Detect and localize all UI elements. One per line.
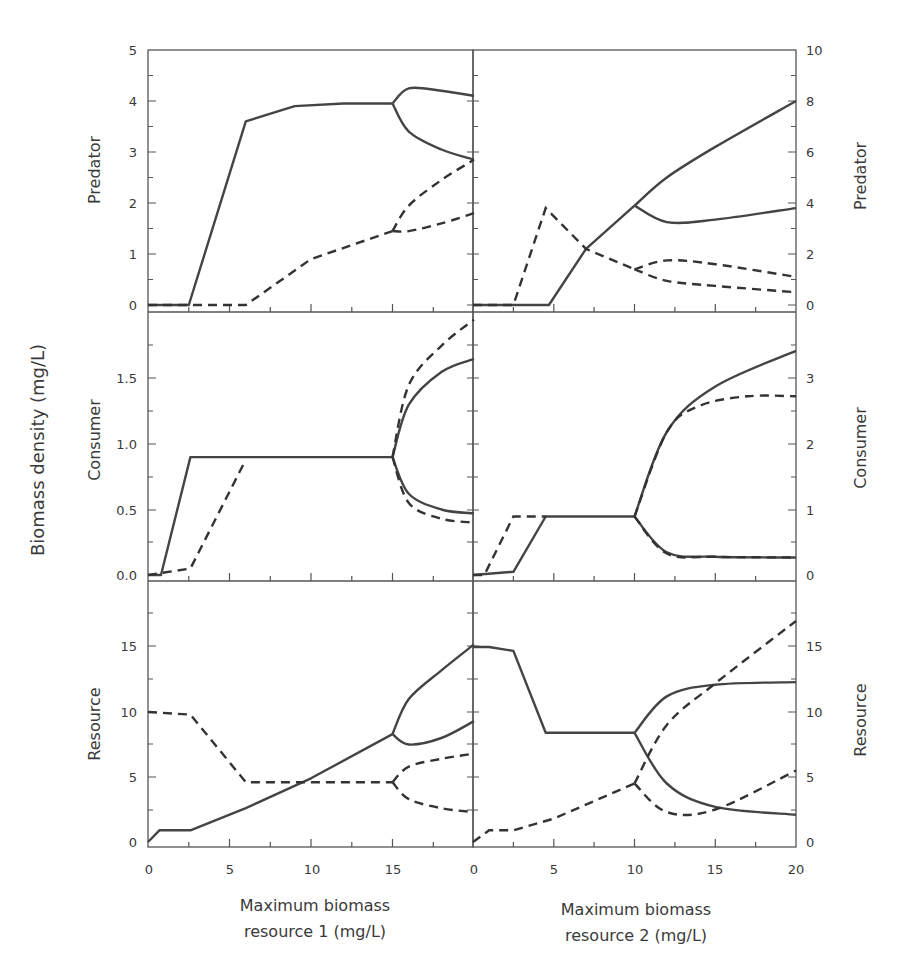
x-axis-title-right-line1: Maximum biomass <box>561 900 711 919</box>
svg-text:10: 10 <box>806 43 823 58</box>
svg-text:15: 15 <box>385 862 402 877</box>
svg-text:10: 10 <box>304 862 321 877</box>
solid-curve <box>473 517 635 576</box>
svg-text:3: 3 <box>129 145 137 160</box>
svg-text:8: 8 <box>806 94 814 109</box>
svg-text:1: 1 <box>129 247 137 262</box>
solid-curve <box>635 517 797 558</box>
svg-text:2: 2 <box>129 196 137 211</box>
svg-text:20: 20 <box>788 862 805 877</box>
svg-text:15: 15 <box>707 862 724 877</box>
solid-curve <box>635 101 797 206</box>
svg-text:0: 0 <box>806 568 814 583</box>
svg-text:2: 2 <box>806 247 814 262</box>
dashed-curve <box>393 754 475 783</box>
solid-curve <box>393 644 475 734</box>
y-axis-title: Biomass density (mg/L) <box>27 344 48 556</box>
svg-text:5: 5 <box>129 43 137 58</box>
svg-text:1: 1 <box>806 503 814 518</box>
dashed-curve <box>393 320 475 458</box>
x-axis-title-left-line1: Maximum biomass <box>240 896 390 915</box>
right-consumer-tick-labels: 0 1 2 3 <box>806 371 814 583</box>
solid-curve <box>635 682 797 733</box>
bifurcation-figure: Biomass density (mg/L) Predator Consumer… <box>0 0 899 974</box>
row-label-predator-left: Predator <box>85 136 104 204</box>
left-consumer-tick-labels: 0.0 0.5 1.0 1.5 <box>116 371 137 583</box>
x-axis-title-right-line2: resource 2 (mg/L) <box>565 926 707 945</box>
solid-curve <box>148 104 393 306</box>
solid-curve <box>393 721 475 744</box>
panel-consumer-right-curves <box>473 351 796 575</box>
svg-text:0: 0 <box>806 298 814 313</box>
dashed-curve <box>473 517 546 576</box>
solid-curve <box>393 457 475 513</box>
svg-text:10: 10 <box>120 705 137 720</box>
solid-curve <box>393 88 475 104</box>
row-label-resource-left: Resource <box>85 687 104 760</box>
right-predator-tick-labels: 0 2 4 6 8 10 <box>806 43 823 313</box>
solid-curve <box>393 104 475 160</box>
right-resource-tick-labels: 0 5 10 15 <box>806 639 823 850</box>
svg-text:1.5: 1.5 <box>116 371 137 386</box>
dashed-curve <box>148 231 393 305</box>
svg-text:0.0: 0.0 <box>116 568 137 583</box>
left-predator-tick-labels: 0 1 2 3 4 5 <box>129 43 137 313</box>
panel-resource-left-curves <box>148 644 474 842</box>
row-label-consumer-right: Consumer <box>851 407 870 489</box>
dashed-curve <box>635 517 797 558</box>
svg-text:0.5: 0.5 <box>116 503 137 518</box>
svg-text:2: 2 <box>806 437 814 452</box>
right-x-tick-labels: 0 5 10 15 20 <box>470 862 804 877</box>
y-ticks-left <box>148 76 796 811</box>
svg-text:0: 0 <box>470 862 478 877</box>
row-label-predator-right: Predator <box>851 142 870 210</box>
svg-text:5: 5 <box>550 862 558 877</box>
dashed-curve <box>473 784 635 843</box>
svg-text:1.0: 1.0 <box>116 437 137 452</box>
row-label-resource-right: Resource <box>851 683 870 756</box>
panel-predator-left-curves <box>148 88 474 305</box>
dashed-curve <box>473 208 635 305</box>
svg-text:4: 4 <box>806 196 814 211</box>
x-axis-title-left-line2: resource 1 (mg/L) <box>244 922 386 941</box>
left-resource-tick-labels: 0 5 10 15 <box>120 639 137 850</box>
left-x-tick-labels: 0 5 10 15 <box>145 862 401 877</box>
svg-text:0: 0 <box>129 298 137 313</box>
svg-text:3: 3 <box>806 371 814 386</box>
solid-curve <box>473 206 635 305</box>
dashed-curve <box>148 712 393 782</box>
svg-text:10: 10 <box>806 705 823 720</box>
svg-text:15: 15 <box>120 639 137 654</box>
dashed-curve <box>148 460 246 575</box>
dashed-curve <box>635 771 797 816</box>
solid-curve <box>393 359 475 457</box>
solid-curve <box>635 351 797 517</box>
panel-predator-right-curves <box>473 101 796 305</box>
panel-frames <box>148 50 796 847</box>
panel-consumer-left-curves <box>148 320 474 575</box>
row-label-consumer-left: Consumer <box>85 399 104 481</box>
svg-text:0: 0 <box>145 862 153 877</box>
panel-resource-right-curves <box>473 621 796 842</box>
svg-text:4: 4 <box>129 94 137 109</box>
svg-text:6: 6 <box>806 145 814 160</box>
svg-text:15: 15 <box>806 639 823 654</box>
solid-curve <box>635 733 797 815</box>
svg-text:0: 0 <box>806 835 814 850</box>
curves <box>148 88 796 842</box>
dashed-curve <box>635 260 797 277</box>
svg-text:5: 5 <box>806 770 814 785</box>
svg-text:5: 5 <box>129 770 137 785</box>
solid-curve <box>635 206 797 223</box>
svg-text:0: 0 <box>129 835 137 850</box>
svg-text:10: 10 <box>627 862 644 877</box>
solid-curve <box>148 734 393 842</box>
solid-curve <box>148 457 393 575</box>
solid-curve <box>473 647 635 733</box>
x-ticks <box>189 304 756 847</box>
dashed-curve <box>393 160 475 231</box>
dashed-curve <box>393 782 475 812</box>
dashed-curve <box>635 396 797 517</box>
dashed-curve <box>393 213 475 231</box>
svg-text:5: 5 <box>226 862 234 877</box>
